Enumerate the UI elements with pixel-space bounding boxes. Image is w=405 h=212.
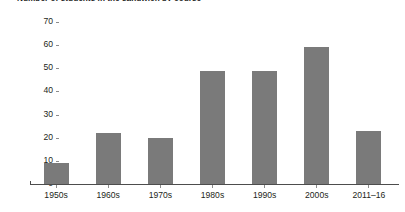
x-axis-labels: 1950s1960s1970s1980s1990s2000s2011–16 — [30, 188, 395, 204]
x-axis-line — [30, 184, 399, 185]
x-axis-tick-label: 2011–16 — [343, 188, 395, 204]
x-axis-tick-label: 1970s — [134, 188, 186, 204]
x-axis-tick-label: 1980s — [186, 188, 238, 204]
bar-slot — [239, 22, 291, 184]
x-axis-tick-label: 1990s — [239, 188, 291, 204]
y-axis-origin-tick — [30, 181, 31, 185]
bar[interactable] — [252, 71, 277, 184]
bar[interactable] — [304, 47, 329, 184]
bar-slot — [134, 22, 186, 184]
x-axis-tick-label: 2000s — [291, 188, 343, 204]
bar-slot — [291, 22, 343, 184]
x-axis-tick-label: 1950s — [30, 188, 82, 204]
bar-slot — [82, 22, 134, 184]
bar-series — [30, 22, 395, 184]
bar[interactable] — [44, 163, 69, 184]
bar-slot — [343, 22, 395, 184]
bar[interactable] — [200, 71, 225, 184]
bar[interactable] — [148, 138, 173, 184]
bar[interactable] — [96, 133, 121, 184]
bar[interactable] — [356, 131, 381, 184]
x-axis-tick-label: 1960s — [82, 188, 134, 204]
chart-title: Number of students in the sandwich by co… — [17, 0, 387, 1]
bar-chart: Number of students in the sandwich by co… — [0, 0, 405, 212]
bar-slot — [186, 22, 238, 184]
bar-slot — [30, 22, 82, 184]
